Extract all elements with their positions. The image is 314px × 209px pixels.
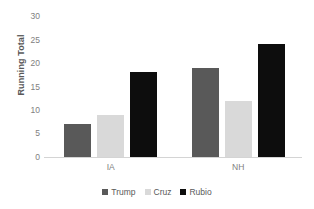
x-category-label: IA	[47, 160, 175, 174]
legend-item-cruz[interactable]: Cruz	[145, 187, 172, 197]
y-tick-label: 0	[20, 153, 40, 162]
legend-label: Rubio	[189, 187, 211, 197]
x-axis-line	[44, 157, 302, 158]
bar[interactable]	[225, 101, 252, 157]
bar-group	[175, 16, 303, 157]
y-tick-label: 20	[20, 58, 40, 67]
y-tick-label: 10	[20, 106, 40, 115]
y-axis-tick-labels: 30 25 20 15 10 5 0	[20, 16, 40, 157]
bar[interactable]	[97, 115, 124, 157]
bar[interactable]	[192, 68, 219, 157]
y-tick-label: 5	[20, 129, 40, 138]
x-category-label: NH	[175, 160, 303, 174]
bar-group	[47, 16, 175, 157]
bar-chart: Running Total 30 25 20 15 10 5 0 IA NH T…	[0, 0, 314, 209]
y-tick-label: 30	[20, 12, 40, 21]
plot-area	[47, 16, 302, 157]
y-tick-label: 15	[20, 82, 40, 91]
bar[interactable]	[130, 72, 157, 157]
bar[interactable]	[64, 124, 91, 157]
legend-label: Trump	[111, 187, 135, 197]
legend-swatch-icon	[145, 189, 151, 195]
y-tick-label: 25	[20, 35, 40, 44]
x-axis-category-labels: IA NH	[47, 160, 302, 174]
bar[interactable]	[258, 44, 285, 157]
legend-swatch-icon	[180, 189, 186, 195]
legend-item-trump[interactable]: Trump	[102, 187, 135, 197]
chart-legend: Trump Cruz Rubio	[0, 185, 314, 199]
legend-label: Cruz	[154, 187, 172, 197]
legend-item-rubio[interactable]: Rubio	[180, 187, 211, 197]
legend-swatch-icon	[102, 189, 108, 195]
